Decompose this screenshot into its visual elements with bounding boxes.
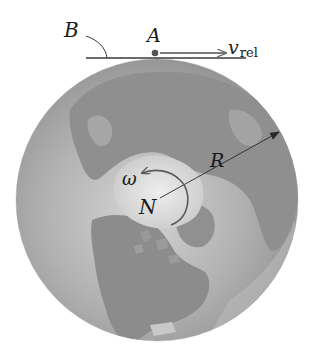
label-r: R — [210, 151, 224, 170]
globe — [16, 59, 300, 350]
label-v-rel: vrel — [228, 38, 258, 57]
label-a: A — [147, 26, 161, 45]
label-omega: ω — [122, 170, 137, 188]
label-b: B — [64, 20, 79, 40]
label-v: v — [228, 36, 239, 58]
earth-rotation-diagram: B A vrel ω N R — [0, 0, 313, 357]
b-leader-line — [86, 36, 107, 58]
label-rel-subscript: rel — [240, 45, 258, 60]
label-n: N — [139, 197, 157, 217]
point-a — [152, 50, 159, 57]
diagram-svg — [0, 0, 313, 357]
